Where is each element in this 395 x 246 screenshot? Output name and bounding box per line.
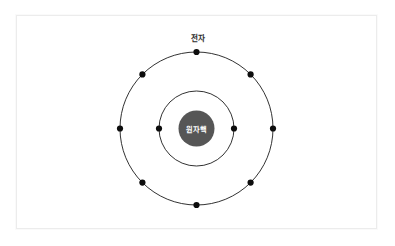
electron-dot xyxy=(139,71,145,77)
electron-dot xyxy=(139,180,145,186)
electron-dot xyxy=(248,180,254,186)
electron-dot xyxy=(231,125,237,131)
electron-label: 전자 xyxy=(191,33,205,43)
electron-dot xyxy=(248,71,254,77)
electron-dot xyxy=(117,125,123,131)
electron-dot xyxy=(156,125,162,131)
electron-dot xyxy=(270,125,276,131)
electron-dot xyxy=(193,202,199,208)
atom-diagram: 원자핵 전자 xyxy=(0,0,395,246)
nucleus-label: 원자핵 xyxy=(186,125,207,134)
figure-canvas: 원자핵 전자 xyxy=(0,0,395,246)
electron-dot xyxy=(193,49,199,55)
